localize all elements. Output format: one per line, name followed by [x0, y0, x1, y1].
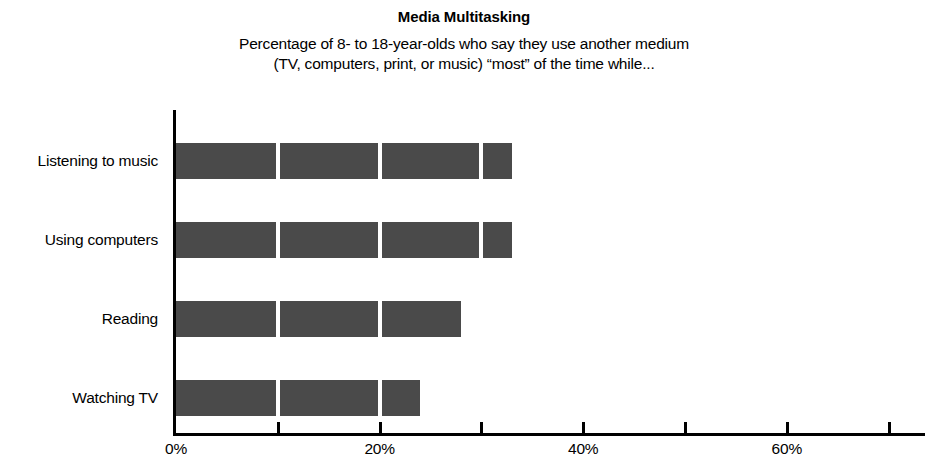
bar-row: Watching TV — [0, 380, 928, 416]
x-axis-tick-label: 0% — [136, 440, 216, 458]
x-axis-tick — [684, 422, 687, 433]
bar-segment-break — [276, 380, 280, 416]
bar-segment-break — [276, 222, 280, 258]
bar-listening-to-music — [176, 143, 512, 179]
x-axis-line — [173, 433, 925, 436]
x-axis-tick — [379, 422, 382, 433]
y-axis-label: Listening to music — [0, 143, 158, 179]
y-axis-label: Watching TV — [0, 380, 158, 416]
bar-segment-break — [378, 380, 382, 416]
y-axis-label: Reading — [0, 301, 158, 337]
x-axis-tick — [582, 422, 585, 433]
bar-segment-break — [378, 301, 382, 337]
bar-watching-tv — [176, 380, 420, 416]
bar-segment-break — [378, 222, 382, 258]
bar-segment-break — [378, 143, 382, 179]
bar-segment-break — [479, 143, 483, 179]
bar-row: Using computers — [0, 222, 928, 258]
x-axis-tick-label: 40% — [543, 440, 623, 458]
bar-segment-break — [276, 143, 280, 179]
x-axis-tick — [480, 422, 483, 433]
x-axis-tick-label: 60% — [747, 440, 827, 458]
bar-using-computers — [176, 222, 512, 258]
plot-area: Listening to music Using computers Readi… — [0, 0, 928, 468]
bar-reading — [176, 301, 461, 337]
bar-segment-break — [479, 222, 483, 258]
x-axis-tick — [786, 422, 789, 433]
x-axis-tick — [888, 422, 891, 433]
bar-segment-break — [276, 301, 280, 337]
media-multitasking-chart: Media Multitasking Percentage of 8- to 1… — [0, 0, 928, 468]
x-axis-tick-label: 20% — [340, 440, 420, 458]
x-axis-tick — [277, 422, 280, 433]
y-axis-label: Using computers — [0, 222, 158, 258]
bar-row: Reading — [0, 301, 928, 337]
bar-row: Listening to music — [0, 143, 928, 179]
